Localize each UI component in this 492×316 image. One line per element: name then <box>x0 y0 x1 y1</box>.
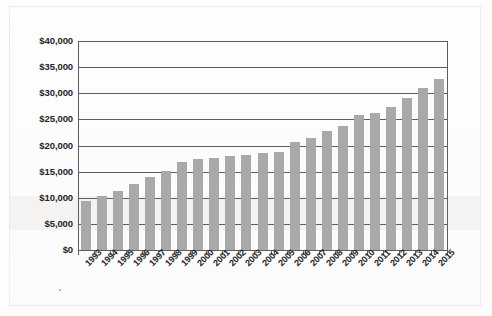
scanned-page: $0$5,000$10,000$15,000$20,000$25,000$30,… <box>0 0 492 316</box>
gridline <box>78 41 447 42</box>
bar <box>225 156 235 250</box>
y-axis-tick-label: $30,000 <box>39 87 73 98</box>
bar <box>241 155 251 250</box>
bar <box>386 107 396 250</box>
x-axis-labels: 1993199419951996199719981999200020012002… <box>78 257 458 305</box>
y-axis-labels: $0$5,000$10,000$15,000$20,000$25,000$30,… <box>0 0 73 316</box>
y-axis-tick-label: $0 <box>63 244 73 255</box>
bar <box>209 158 219 250</box>
x-axis-tick <box>78 251 79 255</box>
y-axis-tick-label: $35,000 <box>39 61 73 72</box>
y-axis-tick-label: $10,000 <box>39 192 73 203</box>
bar <box>402 98 412 250</box>
bar <box>290 142 300 250</box>
bar <box>418 88 428 250</box>
bar <box>306 138 316 250</box>
right-axis-line <box>447 41 448 251</box>
bar <box>258 153 268 250</box>
bar <box>113 191 123 250</box>
bar-chart: $0$5,000$10,000$15,000$20,000$25,000$30,… <box>0 0 492 316</box>
bar <box>370 113 380 250</box>
gridline <box>78 67 447 68</box>
bar <box>129 184 139 250</box>
bar <box>193 159 203 250</box>
bar <box>81 201 91 250</box>
bar <box>274 152 284 250</box>
bar <box>338 126 348 250</box>
bar <box>322 131 332 250</box>
y-axis-tick-label: $15,000 <box>39 166 73 177</box>
y-axis-tick-label: $20,000 <box>39 140 73 151</box>
bar <box>434 79 444 250</box>
y-axis-tick-label: $5,000 <box>45 218 73 229</box>
gridline <box>78 93 447 94</box>
bar <box>177 162 187 250</box>
bar <box>161 171 171 250</box>
bar <box>145 177 155 250</box>
plot-area <box>78 41 447 250</box>
y-axis-tick-label: $40,000 <box>39 35 73 46</box>
bar <box>97 196 107 250</box>
bar <box>354 115 364 250</box>
y-axis-tick-label: $25,000 <box>39 113 73 124</box>
